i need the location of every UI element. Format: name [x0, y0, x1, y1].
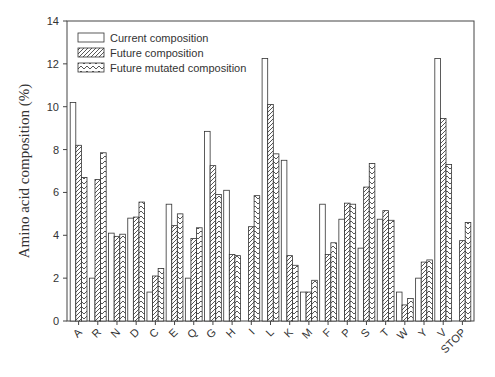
x-tick-label: K — [281, 325, 295, 339]
y-tick-label: 0 — [53, 315, 59, 327]
bar — [300, 292, 306, 321]
bar — [364, 187, 370, 321]
bar — [408, 299, 414, 322]
bar — [254, 196, 260, 321]
bar — [402, 305, 408, 321]
legend-label: Future composition — [110, 47, 204, 59]
x-tick-label: D — [127, 326, 141, 340]
bar — [224, 190, 230, 321]
x-tick-label: Y — [416, 325, 430, 339]
bar — [306, 292, 312, 321]
bar — [249, 227, 255, 321]
legend-swatch — [78, 33, 104, 42]
bar — [268, 105, 274, 321]
bar — [177, 214, 183, 321]
bar — [416, 278, 422, 321]
x-tick-label: S — [358, 326, 372, 340]
x-tick-label: H — [223, 326, 237, 340]
x-tick-label: W — [394, 325, 410, 341]
y-tick-label: 2 — [53, 272, 59, 284]
bar — [158, 269, 164, 322]
bar — [210, 166, 216, 321]
bar — [197, 228, 203, 321]
legend-swatch — [78, 63, 104, 72]
x-tick-label: M — [299, 326, 314, 341]
bar — [76, 145, 82, 321]
bar — [460, 241, 466, 321]
bar — [281, 160, 287, 321]
bar — [147, 292, 153, 321]
y-tick-label: 8 — [53, 144, 59, 156]
y-axis: 02468101214 — [47, 15, 67, 327]
bar — [465, 222, 471, 321]
y-axis-label: Amino acid composition (%) — [16, 84, 33, 259]
bar — [81, 177, 87, 321]
bar — [89, 278, 95, 321]
bar — [205, 131, 211, 321]
x-tick-label: Q — [185, 326, 200, 341]
bar — [120, 234, 126, 321]
bar — [70, 102, 76, 321]
bar — [109, 233, 115, 321]
bar — [95, 180, 101, 321]
bar — [331, 243, 337, 321]
bar — [185, 278, 191, 321]
bar — [325, 255, 331, 321]
legend-label: Current composition — [110, 32, 208, 44]
legend-label: Future mutated composition — [110, 62, 246, 74]
x-tick-label: I — [246, 326, 257, 337]
legend: Current compositionFuture compositionFut… — [78, 32, 246, 74]
x-tick-label: F — [320, 326, 333, 339]
bars-group — [70, 59, 471, 322]
bar — [191, 239, 197, 322]
x-tick-label: R — [89, 326, 103, 340]
bar — [133, 217, 139, 321]
bar — [339, 219, 345, 321]
bar — [287, 256, 293, 321]
y-tick-label: 4 — [53, 229, 59, 241]
x-tick-label: C — [147, 326, 161, 340]
bar — [262, 59, 268, 322]
bar — [292, 265, 298, 321]
x-axis: ARNDCEQGHILKMFPSTWYVSTOP — [70, 321, 467, 355]
bar — [350, 204, 356, 321]
bar — [216, 195, 222, 321]
y-tick-label: 14 — [47, 15, 59, 27]
bar — [320, 204, 326, 321]
bar — [114, 236, 120, 321]
bar — [128, 218, 134, 321]
x-tick-label: G — [204, 326, 219, 341]
bar — [421, 262, 427, 321]
legend-swatch — [78, 48, 104, 57]
bar — [166, 204, 172, 321]
bar — [383, 211, 389, 321]
bar — [101, 153, 107, 321]
bar — [369, 164, 375, 322]
bar — [153, 276, 159, 321]
bar — [172, 226, 178, 321]
bar — [235, 256, 241, 321]
bar — [229, 255, 235, 321]
bar — [427, 260, 433, 321]
bar — [435, 59, 441, 322]
x-tick-label: A — [70, 325, 84, 339]
bar — [446, 165, 452, 321]
bar — [358, 248, 364, 321]
x-tick-label: L — [263, 326, 276, 339]
bar — [396, 292, 402, 321]
x-tick-label: P — [339, 326, 353, 340]
x-tick-label: N — [108, 326, 122, 340]
bar-chart: 02468101214 ARNDCEQGHILKMFPSTWYVSTOP Cur… — [0, 0, 495, 377]
x-tick-label: T — [378, 326, 391, 339]
bar — [312, 280, 318, 321]
bar — [273, 154, 279, 321]
bar — [440, 119, 446, 322]
x-tick-label: E — [166, 326, 180, 340]
bar — [377, 219, 383, 321]
bar — [388, 220, 394, 321]
y-tick-label: 10 — [47, 101, 59, 113]
bar — [139, 202, 145, 321]
y-tick-label: 12 — [47, 58, 59, 70]
y-tick-label: 6 — [53, 186, 59, 198]
bar — [344, 203, 350, 321]
